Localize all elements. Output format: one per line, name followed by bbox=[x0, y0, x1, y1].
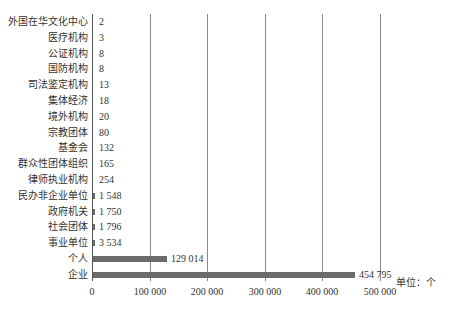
bar bbox=[93, 256, 167, 262]
value-label: 3 534 bbox=[99, 237, 122, 249]
x-tick-label: 0 bbox=[90, 286, 95, 298]
category-label: 境外机构 bbox=[48, 111, 88, 123]
unit-label: 单位：个 bbox=[396, 277, 436, 289]
value-label: 8 bbox=[99, 63, 104, 75]
category-label: 集体经济 bbox=[48, 95, 88, 107]
x-tick-label: 500 000 bbox=[364, 286, 397, 298]
value-label: 20 bbox=[99, 111, 109, 123]
category-label: 司法鉴定机构 bbox=[28, 79, 88, 91]
value-label: 165 bbox=[99, 158, 114, 170]
category-label: 企业 bbox=[68, 269, 88, 281]
gridline bbox=[207, 14, 208, 281]
bar bbox=[93, 193, 95, 199]
value-label: 80 bbox=[99, 127, 109, 139]
x-tick-label: 300 000 bbox=[249, 286, 282, 298]
value-label: 8 bbox=[99, 48, 104, 60]
value-label: 3 bbox=[99, 32, 104, 44]
category-label: 公证机构 bbox=[48, 48, 88, 60]
gridline bbox=[265, 14, 266, 281]
category-label: 群众性团体组织 bbox=[18, 158, 88, 170]
x-tick-label: 400 000 bbox=[306, 286, 339, 298]
value-label: 1 750 bbox=[99, 206, 122, 218]
bar bbox=[93, 240, 95, 246]
bar bbox=[93, 224, 95, 230]
category-label: 律师执业机构 bbox=[28, 174, 88, 186]
x-tick-label: 200 000 bbox=[191, 286, 224, 298]
gridline bbox=[380, 14, 381, 281]
value-label: 129 014 bbox=[171, 253, 204, 265]
value-label: 454 795 bbox=[359, 269, 392, 281]
bar bbox=[93, 209, 95, 215]
value-label: 1 796 bbox=[99, 221, 122, 233]
x-tick-label: 100 000 bbox=[134, 286, 167, 298]
category-label: 外国在华文化中心 bbox=[8, 16, 88, 28]
category-label: 国防机构 bbox=[48, 63, 88, 75]
gridline bbox=[322, 14, 323, 281]
value-label: 13 bbox=[99, 79, 109, 91]
bar bbox=[93, 272, 355, 278]
category-label: 基金会 bbox=[58, 142, 88, 154]
horizontal-bar-chart: 外国在华文化中心2医疗机构3公证机构8国防机构8司法鉴定机构13集体经济18境外… bbox=[0, 0, 450, 314]
category-label: 社会团体 bbox=[48, 221, 88, 233]
value-label: 132 bbox=[99, 142, 114, 154]
category-label: 事业单位 bbox=[48, 237, 88, 249]
value-label: 2 bbox=[99, 16, 104, 28]
category-label: 宗教团体 bbox=[48, 127, 88, 139]
category-label: 个人 bbox=[68, 253, 88, 265]
category-label: 政府机关 bbox=[48, 206, 88, 218]
value-label: 254 bbox=[99, 174, 114, 186]
category-label: 民办非企业单位 bbox=[18, 190, 88, 202]
category-label: 医疗机构 bbox=[48, 32, 88, 44]
gridline bbox=[150, 14, 151, 281]
value-label: 1 548 bbox=[99, 190, 122, 202]
value-label: 18 bbox=[99, 95, 109, 107]
